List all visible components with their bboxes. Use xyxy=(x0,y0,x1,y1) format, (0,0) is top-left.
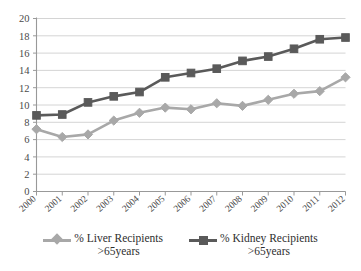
data-point-marker xyxy=(239,57,247,65)
x-tick-label: 2004 xyxy=(120,193,141,213)
x-tick-labels-group: 2000200120022003200420052006200720082009… xyxy=(17,193,347,213)
data-point-marker xyxy=(186,105,195,114)
y-tick-label: 8 xyxy=(24,117,29,128)
data-point-marker xyxy=(33,112,41,120)
x-tick-label: 2011 xyxy=(301,193,322,213)
y-tick-label: 14 xyxy=(19,65,30,76)
legend-swatch-liver xyxy=(43,233,71,247)
data-point-marker xyxy=(187,69,195,77)
y-tick-labels-group: 02468101214161820 xyxy=(19,13,37,197)
y-tick-label: 2 xyxy=(24,169,29,180)
x-tick-label: 2006 xyxy=(172,193,193,213)
x-tick-label: 2002 xyxy=(69,193,90,213)
data-point-marker xyxy=(58,111,66,119)
y-tick-label: 4 xyxy=(24,152,30,163)
data-point-marker xyxy=(110,93,118,101)
data-point-marker xyxy=(212,99,221,108)
legend-label-kidney: % Kidney Recipients >65years xyxy=(220,232,318,258)
line-chart-plot: 02468101214161820 2000200120022003200420… xyxy=(0,0,361,271)
y-tick-label: 20 xyxy=(19,13,30,24)
legend-label-liver: % Liver Recipients >65years xyxy=(74,232,163,258)
x-tick-label: 2001 xyxy=(43,193,64,213)
data-point-marker xyxy=(289,89,298,98)
legend-item-liver[interactable]: % Liver Recipients >65years xyxy=(43,232,163,258)
x-tick-label: 2003 xyxy=(94,193,115,213)
diamond-marker-icon xyxy=(52,233,63,244)
x-tick-label: 2005 xyxy=(146,193,167,213)
data-point-marker xyxy=(135,108,144,117)
x-tick-label: 2000 xyxy=(17,193,38,213)
data-point-marker xyxy=(342,34,350,42)
legend-item-kidney[interactable]: % Kidney Recipients >65years xyxy=(189,232,318,258)
data-point-marker xyxy=(213,65,221,73)
data-point-marker xyxy=(238,101,247,110)
x-tick-label: 2007 xyxy=(197,193,218,213)
y-tick-label: 16 xyxy=(19,48,30,59)
y-tick-label: 10 xyxy=(19,100,30,111)
x-tick-label: 2012 xyxy=(326,193,347,213)
y-tick-label: 6 xyxy=(24,134,29,145)
data-point-marker xyxy=(316,35,324,43)
legend-swatch-kidney xyxy=(189,233,217,247)
x-tick-label: 2010 xyxy=(275,193,296,213)
y-tick-label: 18 xyxy=(19,31,30,42)
x-tick-label: 2008 xyxy=(223,193,244,213)
data-point-marker xyxy=(58,132,67,141)
data-point-marker xyxy=(341,73,350,82)
data-point-marker xyxy=(264,53,272,61)
data-point-marker xyxy=(109,116,118,125)
chart-container: 02468101214161820 2000200120022003200420… xyxy=(0,0,361,271)
data-point-marker xyxy=(83,130,92,139)
chart-legend: % Liver Recipients >65years % Kidney Rec… xyxy=(0,232,361,258)
data-point-marker xyxy=(136,88,144,96)
data-point-marker xyxy=(290,45,298,53)
data-point-marker xyxy=(84,99,92,107)
y-tick-label: 12 xyxy=(19,83,30,94)
square-marker-icon xyxy=(199,236,208,245)
x-tick-label: 2009 xyxy=(249,193,270,213)
data-point-marker xyxy=(32,125,41,134)
data-point-marker xyxy=(161,103,170,112)
data-point-marker xyxy=(161,74,169,82)
data-point-marker xyxy=(264,95,273,104)
